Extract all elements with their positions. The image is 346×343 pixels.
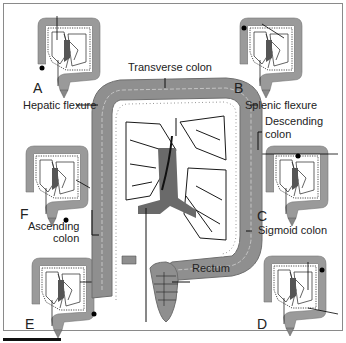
label-splenic-flexure: Splenic flexure	[245, 99, 317, 111]
label-descending-colon-line2: colon	[265, 128, 291, 140]
label-descending-colon-line1: Descending	[265, 115, 323, 127]
inset-d	[264, 256, 338, 336]
label-rectum: Rectum	[192, 262, 230, 274]
inset-letter-a: A	[33, 81, 42, 95]
colon-diagram	[0, 0, 346, 343]
inset-a	[38, 16, 100, 98]
inset-letter-c: C	[257, 209, 267, 223]
label-transverse-colon: Transverse colon	[128, 61, 212, 73]
inset-letter-b: B	[234, 81, 243, 95]
inset-letter-f: F	[20, 207, 29, 221]
inset-f	[26, 146, 90, 226]
main-colon	[92, 78, 262, 322]
label-hepatic-flexure: Hepatic flexure	[23, 99, 96, 111]
inset-letter-e: E	[25, 317, 34, 331]
inset-letter-d: D	[257, 317, 267, 331]
label-ascending-colon-line1: Ascending	[28, 220, 79, 232]
label-sigmoid-colon: Sigmoid colon	[258, 224, 327, 236]
label-ascending-colon-line2: colon	[53, 232, 79, 244]
